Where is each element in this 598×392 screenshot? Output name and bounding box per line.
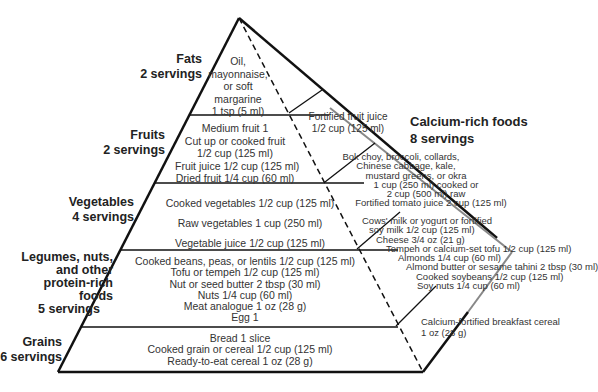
label-fruits: Fruits 2 servings <box>90 128 165 158</box>
label-legumes-servings: 5 servings <box>0 303 113 316</box>
calcium-title: Calcium-rich foods <box>410 113 528 130</box>
label-grains-name: Grains <box>0 335 62 350</box>
side-text: Fortified fruit juice <box>300 111 396 123</box>
label-fats-name: Fats <box>140 52 202 67</box>
label-fruits-servings: 2 servings <box>90 143 165 158</box>
side-text: Fortified tomato juice 2 cup (125 ml) <box>336 198 526 207</box>
tier-legumes: Cooked beans, peas, or lentils 1/2 cup (… <box>135 256 355 324</box>
tier-text: Oil, <box>203 55 273 68</box>
calcium-veg-side: Bok choy, broccoli, collards, Chinese ca… <box>326 152 526 208</box>
tier-fats: Oil, mayonnaise, or soft margarine 1 tsp… <box>203 55 273 118</box>
label-grains-servings: 6 servings <box>0 350 62 365</box>
label-vegetables-name: Vegetables <box>50 195 134 210</box>
tier-text: Cooked grain or cereal 1/2 cup (125 ml) <box>145 344 335 355</box>
tier-text: or soft <box>203 80 273 93</box>
label-vegetables-servings: 4 servings <box>50 210 134 225</box>
tier-grains: Bread 1 slice Cooked grain or cereal 1/2… <box>145 333 335 367</box>
side-text: Soy nuts 1/4 cup (60 ml) <box>362 281 598 290</box>
tier-text: Medium fruit 1 <box>175 122 295 135</box>
calcium-grain-side: Calcium-fortified breakfast cereal 1 oz … <box>421 316 560 338</box>
calcium-legume-side: Cows' milk or yogurt or fortified soy mi… <box>362 216 598 290</box>
tier-vegetables: Cooked vegetables 1/2 cup (125 ml) Raw v… <box>160 193 340 253</box>
label-fruits-name: Fruits <box>90 128 165 143</box>
tier-text: Tofu or tempeh 1/2 cup (125 ml) <box>135 267 355 278</box>
label-legumes: Legumes, nuts, and other protein-rich fo… <box>0 251 113 316</box>
tier-text: Cooked vegetables 1/2 cup (125 ml) <box>160 193 340 213</box>
side-text: 1/2 cup (125 ml) <box>300 123 396 135</box>
tier-text: margarine <box>203 93 273 106</box>
calcium-servings: 8 servings <box>410 130 528 147</box>
label-fats: Fats 2 servings <box>140 52 202 82</box>
tier-text: 1 tsp (5 ml) <box>203 105 273 118</box>
label-fats-servings: 2 servings <box>140 67 202 82</box>
side-text: 1 oz (28 g) <box>421 327 560 338</box>
tier-text: mayonnaise, <box>203 68 273 81</box>
tier-text: Cut up or cooked fruit <box>175 135 295 148</box>
tier-text: Raw vegetables 1 cup (250 ml) <box>160 213 340 233</box>
label-vegetables: Vegetables 4 servings <box>50 195 134 225</box>
calcium-heading: Calcium-rich foods 8 servings <box>410 113 528 147</box>
calcium-fruits-side: Fortified fruit juice 1/2 cup (125 ml) <box>300 111 396 134</box>
tier-text: Vegetable juice 1/2 cup (125 ml) <box>160 233 340 253</box>
side-text: Calcium-fortified breakfast cereal <box>421 316 560 327</box>
tier-text: Ready-to-eat cereal 1 oz (28 g) <box>145 356 335 367</box>
tier-text: Fruit juice 1/2 cup (125 ml) <box>175 160 295 173</box>
tier-text: Egg 1 <box>135 312 355 323</box>
label-grains: Grains 6 servings <box>0 335 62 365</box>
tier-text: Dried fruit 1/4 cup (60 ml) <box>175 172 295 185</box>
